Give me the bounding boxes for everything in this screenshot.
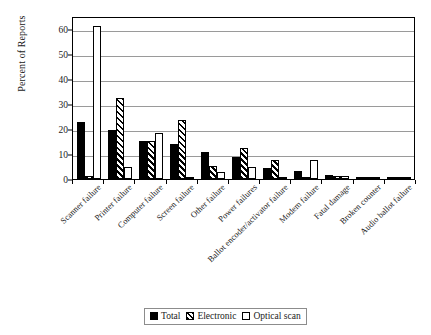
bar-chart: Percent of Reports 0102030405060 Scanner…	[0, 0, 431, 335]
bar-group	[352, 18, 383, 179]
bar-groups	[73, 18, 414, 179]
bar-group	[383, 18, 414, 179]
y-axis-title: Percent of Reports	[16, 0, 27, 119]
legend-item: Total	[150, 310, 180, 322]
bar-total	[139, 141, 147, 179]
chart-legend: TotalElectronicOptical scan	[144, 308, 307, 325]
bar-group	[228, 18, 259, 179]
bar-electronic	[178, 120, 186, 179]
bar-group	[321, 18, 352, 179]
hatched-swatch	[186, 312, 194, 320]
bar-electronic	[209, 166, 217, 179]
bar-optical	[341, 176, 349, 179]
solid-black-swatch	[150, 312, 158, 320]
bar-optical	[155, 133, 163, 179]
bar-total	[325, 175, 333, 179]
bar-total	[201, 152, 209, 179]
bar-total	[294, 171, 302, 179]
bar-group	[290, 18, 321, 179]
bar-electronic	[395, 177, 403, 179]
bar-electronic	[271, 160, 279, 179]
bar-group	[197, 18, 228, 179]
bar-electronic	[302, 177, 310, 179]
bar-group	[73, 18, 104, 179]
bar-electronic	[85, 176, 93, 179]
legend-label: Electronic	[197, 310, 236, 322]
bar-group	[259, 18, 290, 179]
bar-electronic	[333, 176, 341, 179]
bar-group	[166, 18, 197, 179]
bar-optical	[248, 167, 256, 179]
bar-electronic	[240, 148, 248, 179]
bar-total	[77, 122, 85, 179]
y-tick-label: 30	[59, 100, 69, 109]
bar-optical	[279, 177, 287, 179]
y-tick-label: 40	[59, 75, 69, 84]
y-tick-label: 20	[59, 125, 69, 134]
y-tick-label: 10	[59, 150, 69, 159]
bar-optical	[310, 160, 318, 179]
legend-label: Total	[161, 310, 180, 322]
bar-total	[356, 177, 364, 179]
bar-optical	[403, 177, 411, 179]
bar-optical	[186, 177, 194, 179]
plot-area	[72, 17, 415, 180]
bar-optical	[217, 172, 225, 179]
white-outline-swatch	[242, 312, 250, 320]
x-axis-labels: Scanner failurePrinter failureComputer f…	[72, 182, 415, 292]
y-tick-label: 60	[59, 25, 69, 34]
bar-total	[108, 130, 116, 179]
bar-optical	[93, 26, 101, 179]
bar-total	[387, 177, 395, 179]
legend-label: Optical scan	[253, 310, 300, 322]
bar-total	[263, 168, 271, 179]
bar-electronic	[116, 98, 124, 179]
bar-electronic	[147, 141, 155, 179]
bar-electronic	[364, 177, 372, 179]
bar-group	[135, 18, 166, 179]
bar-optical	[372, 177, 380, 179]
y-axis-ticks: 0102030405060	[38, 17, 68, 180]
bar-optical	[124, 167, 132, 179]
x-tick-mark	[415, 180, 416, 184]
legend-item: Optical scan	[242, 310, 300, 322]
legend-item: Electronic	[186, 310, 236, 322]
y-tick-label: 50	[59, 50, 69, 59]
bar-total	[232, 157, 240, 179]
bar-total	[170, 144, 178, 179]
bar-group	[104, 18, 135, 179]
